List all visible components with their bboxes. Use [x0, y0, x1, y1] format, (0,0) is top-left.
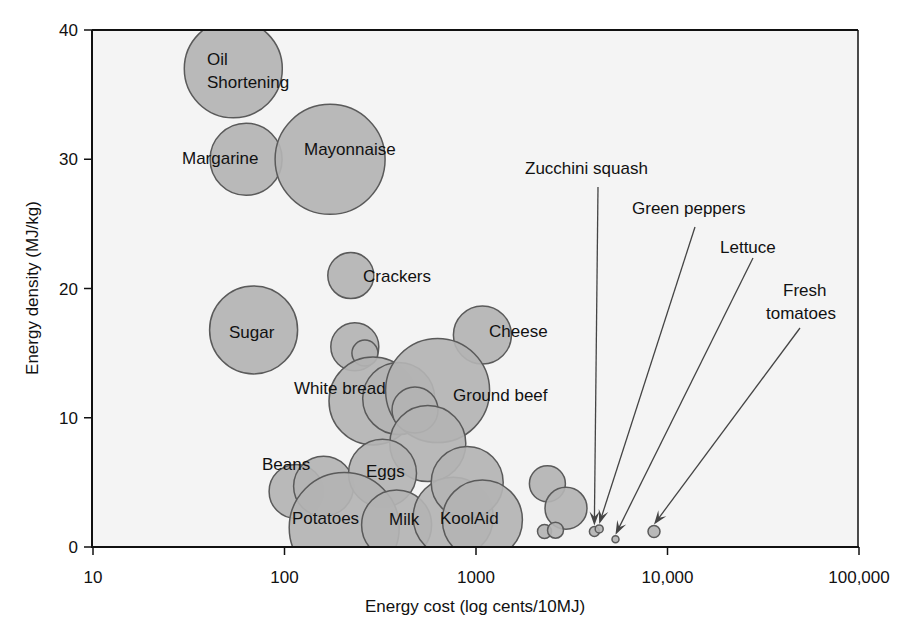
x-axis-title: Energy cost (log cents/10MJ) — [365, 597, 585, 616]
bubble-green-peppers — [595, 525, 603, 533]
y-tick-label: 30 — [59, 150, 78, 169]
y-tick-label: 10 — [59, 409, 78, 428]
bubble-mayonnaise — [275, 104, 385, 214]
label-sugar: Sugar — [229, 323, 275, 342]
label-mayonnaise: Mayonnaise — [304, 140, 396, 159]
y-tick-label: 0 — [69, 538, 78, 557]
label-fresh: Fresh — [783, 281, 826, 300]
x-tick-label: 100,000 — [828, 568, 889, 587]
label-crackers: Crackers — [363, 267, 431, 286]
y-axis-title: Energy density (MJ/kg) — [23, 201, 42, 375]
bubble-fresh-tomatoes — [648, 526, 660, 538]
x-tick-label: 10,000 — [642, 568, 694, 587]
label-zucchini: Zucchini squash — [525, 159, 648, 178]
label-koolaid: KoolAid — [440, 509, 499, 528]
x-axis-ticks: 10100100010,000100,000 — [84, 547, 890, 587]
bubble-oil-shortening — [184, 20, 282, 118]
label-white-bread: White bread — [294, 379, 386, 398]
x-tick-label: 1000 — [457, 568, 495, 587]
label-beans: Beans — [262, 455, 310, 474]
label-ground-beef: Ground beef — [453, 386, 548, 405]
label-green-peppers: Green peppers — [632, 199, 745, 218]
label-margarine: Margarine — [182, 149, 259, 168]
y-tick-label: 40 — [59, 21, 78, 40]
y-tick-label: 20 — [59, 280, 78, 299]
label-milk: Milk — [389, 510, 420, 529]
label-tomatoes: tomatoes — [766, 304, 836, 323]
label-lettuce: Lettuce — [720, 238, 776, 257]
label-eggs: Eggs — [366, 462, 405, 481]
bubble-unlabeled — [548, 522, 564, 538]
bubble-chart: 10100100010,000100,000 010203040 Energy … — [0, 0, 914, 629]
bubble-lettuce — [612, 536, 619, 543]
label-oil: Oil — [207, 50, 228, 69]
label-shortening: Shortening — [207, 73, 289, 92]
label-potatoes: Potatoes — [292, 509, 359, 528]
x-tick-label: 10 — [84, 568, 103, 587]
label-cheese: Cheese — [489, 322, 548, 341]
y-axis-ticks: 010203040 — [59, 21, 92, 557]
x-tick-label: 100 — [270, 568, 298, 587]
